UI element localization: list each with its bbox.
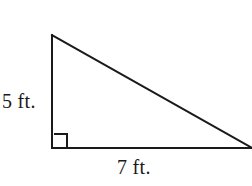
horizontal-leg-length-label: 7 ft.	[117, 157, 151, 177]
vertical-leg-length-label: 5 ft.	[2, 91, 36, 111]
right-triangle-figure: 5 ft. 7 ft.	[0, 0, 252, 186]
triangle-outline	[52, 35, 252, 148]
right-angle-marker-icon	[54, 134, 67, 147]
